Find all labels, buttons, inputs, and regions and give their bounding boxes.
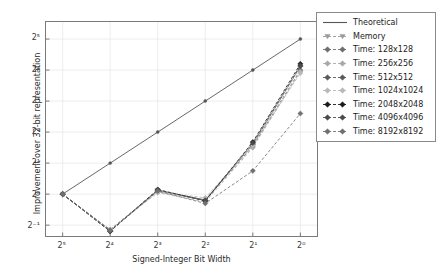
legend-item-time-8192x8192[interactable]: Time: 8192x8192 (320, 125, 431, 139)
legend-label: Time: 128x128 (350, 45, 413, 54)
data-series-layer (46, 22, 317, 236)
legend-label: Time: 256x256 (350, 59, 413, 68)
series-memory (60, 65, 302, 232)
x-tick-label: 2⁴ (106, 242, 114, 250)
legend-label: Time: 2048x2048 (350, 100, 423, 109)
legend-marker-icon (320, 84, 350, 97)
legend-label: Theoretical (350, 18, 398, 27)
legend-item-time-1024x1024[interactable]: Time: 1024x1024 (320, 84, 431, 98)
legend-label: Time: 512x512 (350, 73, 413, 82)
x-tick-label: 2⁵ (58, 242, 66, 250)
series-time-4096x4096 (60, 63, 303, 233)
legend-label: Time: 1024x1024 (350, 86, 423, 95)
legend-item-time-128x128[interactable]: Time: 128x128 (320, 43, 431, 57)
legend-item-theoretical[interactable]: Theoretical (320, 16, 431, 30)
series-time-256x256 (60, 69, 303, 232)
chart-legend[interactable]: TheoreticalMemoryTime: 128x128Time: 256x… (316, 12, 436, 142)
legend-item-memory[interactable]: Memory (320, 30, 431, 44)
series-time-2048x2048 (60, 61, 303, 234)
legend-marker-icon (320, 111, 350, 124)
legend-label: Memory (350, 32, 386, 41)
series-time-128x128 (60, 67, 303, 232)
legend-item-time-4096x4096[interactable]: Time: 4096x4096 (320, 111, 431, 125)
legend-label: Time: 8192x8192 (350, 127, 423, 136)
legend-marker-icon (320, 16, 350, 29)
series-time-1024x1024 (60, 71, 303, 234)
legend-marker-icon (320, 30, 350, 43)
legend-marker-icon (320, 125, 350, 138)
legend-marker-icon (320, 43, 350, 56)
legend-marker-icon (320, 71, 350, 84)
x-tick-label: 2² (201, 242, 209, 250)
x-tick-label: 2³ (153, 242, 161, 250)
plot-area (45, 21, 318, 237)
legend-item-time-512x512[interactable]: Time: 512x512 (320, 70, 431, 84)
x-axis-title: Signed-Integer Bit Width (45, 255, 318, 264)
legend-marker-icon (320, 98, 350, 111)
chart-figure: 2⁻¹2⁰2¹2²2³2⁴2⁵ 2⁵2⁴2³2²2¹2⁰ Signed-Inte… (0, 0, 441, 273)
x-tick-label: 2⁰ (297, 242, 305, 250)
series-time-512x512 (60, 64, 303, 234)
legend-marker-icon (320, 57, 350, 70)
y-axis-title: Improvement over 32-bit representation (33, 26, 42, 242)
legend-item-time-256x256[interactable]: Time: 256x256 (320, 57, 431, 71)
legend-item-time-2048x2048[interactable]: Time: 2048x2048 (320, 98, 431, 112)
series-theoretical (61, 38, 302, 196)
legend-label: Time: 4096x4096 (350, 113, 423, 122)
x-tick-label: 2¹ (249, 242, 257, 250)
